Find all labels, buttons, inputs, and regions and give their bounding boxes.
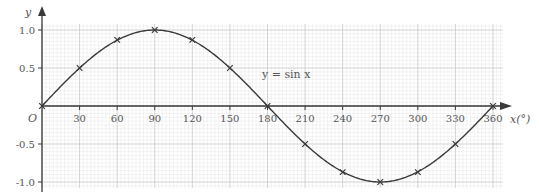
x-tick-label: 210: [296, 113, 315, 124]
x-tick-label: 180: [258, 113, 277, 124]
x-axis-label: x(°): [510, 113, 530, 126]
curve-label: y = sin x: [261, 68, 311, 81]
y-axis-arrow-icon: [38, 6, 46, 16]
y-axis-label: y: [24, 6, 32, 19]
x-tick-label: 270: [371, 113, 390, 124]
y-tick-label: -1.0: [16, 177, 35, 188]
x-tick-label: 60: [111, 113, 124, 124]
x-tick-label: 330: [446, 113, 465, 124]
y-tick-label: 1.0: [19, 25, 35, 36]
origin-label: O: [28, 112, 37, 125]
x-tick-label: 90: [148, 113, 161, 124]
sine-chart: 3060901201501802102402703003303601.00.5-…: [0, 0, 539, 196]
x-tick-label: 360: [483, 113, 502, 124]
y-tick-label: 0.5: [19, 63, 35, 74]
x-axis-arrow-icon: [500, 102, 512, 110]
x-tick-label: 30: [73, 113, 86, 124]
x-tick-label: 300: [408, 113, 427, 124]
y-tick-label: -0.5: [16, 139, 35, 150]
x-tick-label: 120: [183, 113, 202, 124]
x-tick-label: 240: [333, 113, 352, 124]
x-tick-label: 150: [220, 113, 239, 124]
